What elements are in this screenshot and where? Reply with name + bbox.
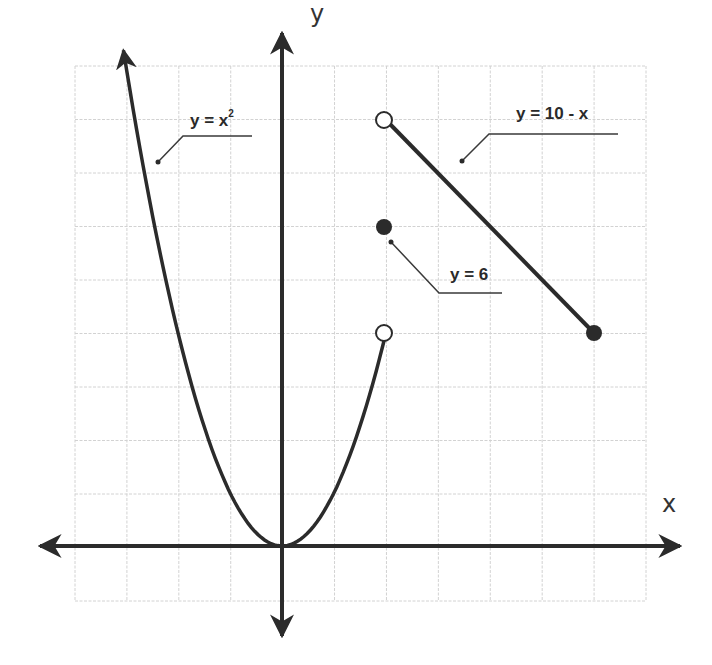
- open-circle-parabola-end: [376, 325, 392, 341]
- label-line: y = 10 - x: [516, 104, 588, 124]
- x-axis-label: x: [662, 490, 676, 518]
- label-parabola-main: y = x: [190, 111, 228, 130]
- filled-circle-line-end: [586, 325, 602, 341]
- callout-dot-parabola: [156, 160, 161, 165]
- filled-point-y6: [376, 219, 392, 235]
- callout-dot-point: [389, 240, 394, 245]
- grid: [75, 66, 646, 601]
- callout-parabola: [158, 136, 252, 162]
- open-circle-line-start: [376, 112, 392, 128]
- callout-dot-line: [460, 159, 465, 164]
- label-point: y = 6: [450, 265, 488, 285]
- callout-line: [462, 134, 618, 161]
- label-parabola: y = x2: [190, 110, 234, 131]
- label-parabola-exponent: 2: [228, 108, 234, 119]
- y-axis-label: y: [310, 0, 324, 28]
- parabola-curve: [123, 50, 386, 546]
- function-graph: [0, 0, 712, 665]
